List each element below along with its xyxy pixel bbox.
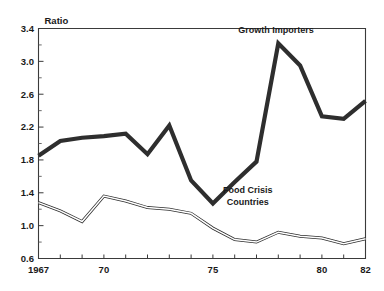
- series-line-growth-importers: [39, 43, 366, 203]
- x-tick-label: 1967: [28, 264, 49, 275]
- x-tick-label: 80: [317, 264, 328, 275]
- y-tick-label: 1.0: [21, 220, 34, 231]
- series-label: Countries: [227, 197, 269, 207]
- y-tick-label: 1.8: [21, 154, 34, 165]
- x-tick-label: 70: [99, 264, 110, 275]
- y-tick-label: 1.4: [21, 187, 35, 198]
- series-label: Growth Importers: [238, 25, 314, 35]
- y-axis-ticks: [39, 29, 44, 259]
- axes-group: [39, 29, 366, 259]
- x-axis-tick-labels: 196770758082: [28, 264, 371, 275]
- x-axis-ticks: [39, 255, 366, 259]
- y-axis-title: Ratio: [45, 15, 69, 26]
- axis-frame: [39, 29, 366, 259]
- data-series-group: [39, 43, 366, 243]
- line-chart: 0.61.01.41.82.22.63.03.4 196770758082 Ra…: [0, 0, 384, 291]
- series-label: Food Crisis: [223, 185, 273, 195]
- y-tick-label: 0.6: [21, 253, 34, 264]
- y-tick-label: 3.0: [21, 56, 34, 67]
- y-tick-label: 2.6: [21, 89, 34, 100]
- x-tick-label: 75: [208, 264, 219, 275]
- chart-container: 0.61.01.41.82.22.63.03.4 196770758082 Ra…: [0, 0, 384, 291]
- y-axis-tick-labels: 0.61.01.41.82.22.63.03.4: [21, 23, 35, 264]
- y-tick-label: 2.2: [21, 121, 34, 132]
- y-tick-label: 3.4: [21, 23, 35, 34]
- x-tick-label: 82: [360, 264, 371, 275]
